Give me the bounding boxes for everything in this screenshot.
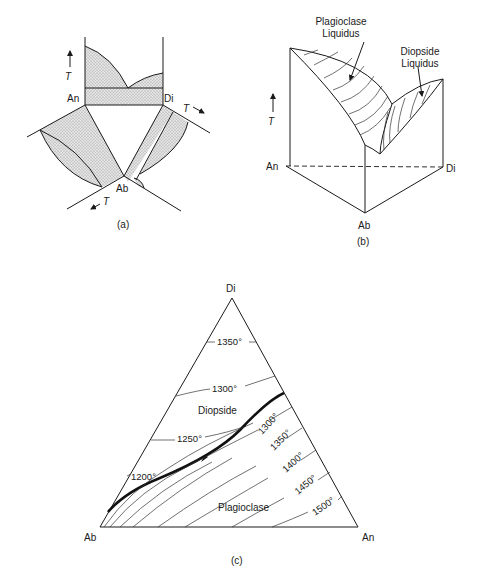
t-label-b: T [268, 116, 275, 127]
t-label-right: T [183, 103, 190, 114]
caption-b: (b) [357, 236, 369, 247]
plagioclase-contours [304, 50, 390, 135]
field-plagioclase: Plagioclase [218, 502, 270, 513]
figure-canvas: T T T An Di Ab (a) [0, 0, 478, 580]
caption-c: (c) [231, 555, 243, 566]
vertex-ab-c: Ab [84, 532, 97, 543]
isotherm-1300-di: 1300° [212, 383, 237, 394]
vertex-an-c: An [362, 532, 374, 543]
vertex-ab-b: Ab [358, 220, 371, 231]
isotherm-1400-pl: 1400° [280, 449, 306, 474]
vertex-di-c: Di [226, 283, 235, 294]
vertex-di: Di [164, 93, 173, 104]
plagioclase-liquidus-pointer [350, 42, 364, 80]
panel-c-ternary-diagram: 1350° 1300° 1250° 1200° 1300° 1350° 1400… [84, 283, 374, 566]
diopside-contours [384, 85, 431, 150]
vertex-di-b: Di [446, 163, 455, 174]
binary-an-di [85, 37, 163, 105]
isotherm-1500-pl: 1500° [310, 494, 337, 517]
panel-a-exploded-diagram: T T T An Di Ab (a) [27, 37, 210, 230]
isotherm-1450-pl: 1450° [292, 472, 318, 497]
cotectic-boundary [108, 393, 284, 512]
t-label-bottom: T [103, 196, 110, 207]
binary-di-ab [124, 105, 210, 211]
binary-an-ab [27, 105, 124, 209]
t-label-vertical: T [65, 71, 72, 82]
isotherm-1350-pl: 1350° [268, 427, 294, 453]
isotherm-1250-di: 1250° [177, 433, 202, 444]
vertex-ab: Ab [116, 183, 129, 194]
diopside-liquidus-label-1: Diopside [401, 46, 440, 57]
isotherm-1200-di: 1200° [131, 471, 156, 482]
diopside-liquidus-label-2: Liquidus [401, 58, 438, 69]
vertex-an: An [67, 93, 79, 104]
caption-a: (a) [117, 219, 129, 230]
vertex-an-b: An [266, 161, 278, 172]
field-diopside: Diopside [198, 405, 237, 416]
isotherm-1350-di: 1350° [217, 336, 242, 347]
plagioclase-liquidus-label-1: Plagioclase [315, 16, 367, 27]
diopside-liquidus-pointer [418, 67, 422, 96]
panel-b-3d-liquidus: Plagioclase Liquidus Diopside Liquidus T… [266, 16, 455, 247]
plagioclase-liquidus-label-2: Liquidus [322, 28, 359, 39]
temperature-arrow-left [91, 204, 100, 209]
temperature-arrow-right [193, 107, 204, 113]
isotherm-1300-pl: 1300° [255, 410, 280, 436]
